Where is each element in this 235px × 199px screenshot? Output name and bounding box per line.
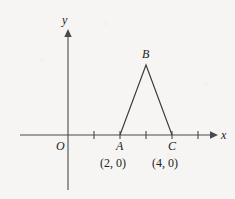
y-axis-label: y <box>62 14 67 26</box>
point-label-b: B <box>142 48 149 60</box>
coordinate-figure: y x O A (2, 0) B C (4, 0) <box>0 0 235 199</box>
origin-label: O <box>56 140 65 152</box>
point-label-a: A <box>116 140 123 152</box>
x-axis-label: x <box>221 129 226 141</box>
triangle-sides-ab-bc <box>120 65 172 135</box>
point-label-c: C <box>168 140 176 152</box>
point-coord-a: (2, 0) <box>100 157 126 169</box>
x-axis-arrowhead <box>210 131 218 139</box>
y-axis-arrowhead <box>64 29 71 37</box>
point-coord-c: (4, 0) <box>152 157 178 169</box>
